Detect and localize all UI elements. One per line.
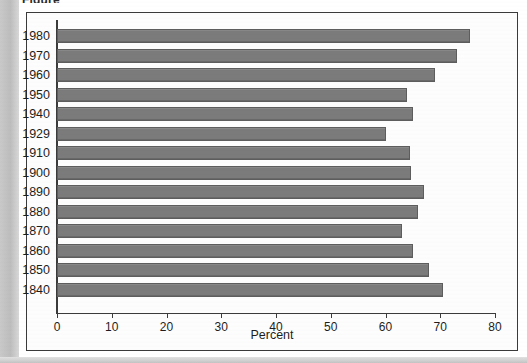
bar xyxy=(57,224,402,238)
bar xyxy=(57,185,424,199)
y-axis-category-label: 1960 xyxy=(22,68,50,82)
bar xyxy=(57,68,435,82)
bar xyxy=(57,244,413,258)
bar xyxy=(57,107,413,121)
x-axis-tick xyxy=(331,313,332,318)
x-axis-tick xyxy=(167,313,168,318)
y-axis-category-label: 1880 xyxy=(22,205,50,219)
x-axis-tick xyxy=(112,313,113,318)
y-axis-category-label: 1900 xyxy=(22,166,50,180)
bar-chart-plot-area: 0102030405060708019801970196019501940192… xyxy=(57,23,495,310)
y-axis-category-label: 1850 xyxy=(22,263,50,277)
x-axis-tick xyxy=(57,313,58,318)
y-axis-category-label: 1929 xyxy=(22,127,50,141)
scanned-page: Figure 010203040506070801980197019601950… xyxy=(0,0,527,363)
bar xyxy=(57,49,457,63)
y-axis-category-label: 1890 xyxy=(22,185,50,199)
y-axis-category-label: 1980 xyxy=(22,29,50,43)
y-axis-category-label: 1840 xyxy=(22,283,50,297)
bar xyxy=(57,127,386,141)
figure-frame: 0102030405060708019801970196019501940192… xyxy=(26,12,518,351)
page-top-margin xyxy=(0,0,527,11)
bar xyxy=(57,146,410,160)
y-axis-category-label: 1910 xyxy=(22,146,50,160)
bar xyxy=(57,205,418,219)
x-axis-tick xyxy=(221,313,222,318)
page-bottom-margin xyxy=(0,357,527,363)
x-axis-tick xyxy=(386,313,387,318)
x-axis-tick xyxy=(276,313,277,318)
page-left-margin xyxy=(0,0,19,363)
x-axis-tick xyxy=(440,313,441,318)
bar xyxy=(57,263,429,277)
x-axis-tick xyxy=(495,313,496,318)
y-axis-category-label: 1940 xyxy=(22,107,50,121)
y-axis-category-label: 1950 xyxy=(22,88,50,102)
y-axis-category-label: 1860 xyxy=(22,244,50,258)
figure-caption-fragment: Figure xyxy=(22,0,60,3)
bar xyxy=(57,283,443,297)
y-axis-category-label: 1870 xyxy=(22,224,50,238)
bar xyxy=(57,29,470,43)
bar xyxy=(57,166,411,180)
y-axis-category-label: 1970 xyxy=(22,49,50,63)
x-axis-title: Percent xyxy=(27,328,517,342)
bar xyxy=(57,88,407,102)
